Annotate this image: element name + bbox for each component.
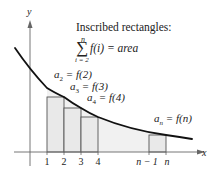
sum-lower-limit: i = 2 bbox=[75, 55, 89, 66]
tick-label-4: 4 bbox=[96, 157, 101, 167]
y-axis-label: y bbox=[27, 6, 31, 17]
rectangle-a4 bbox=[81, 117, 98, 152]
rectangle-a2 bbox=[47, 97, 64, 152]
annotation-a4: a4 = f(4) bbox=[87, 92, 125, 108]
y-axis-arrow-icon bbox=[28, 20, 33, 28]
diagram-title: Inscribed rectangles: bbox=[76, 22, 171, 33]
sigma-icon: ∑ bbox=[76, 39, 88, 56]
sum-body: f(i) = area bbox=[90, 43, 138, 54]
annotation-an: an = f(n) bbox=[154, 113, 192, 129]
rectangle-an bbox=[149, 135, 166, 152]
rectangle-a3 bbox=[64, 108, 81, 152]
tick-label-n: n bbox=[165, 157, 170, 167]
sum-formula: n ∑ i = 2 f(i) = area bbox=[75, 34, 155, 62]
tick-label-3: 3 bbox=[79, 157, 84, 167]
tick-label-n-minus-1: n − 1 bbox=[136, 157, 158, 167]
tick-label-1: 1 bbox=[45, 157, 50, 167]
x-axis-label: x bbox=[202, 147, 206, 158]
tick-label-2: 2 bbox=[62, 157, 67, 167]
